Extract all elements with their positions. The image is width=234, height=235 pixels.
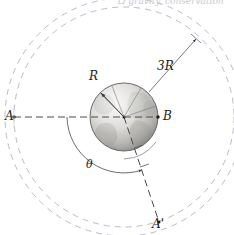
- orbit-figure: Ω gravity, conservation A B A' R 3R θ: [0, 0, 234, 235]
- earth-globe: [90, 83, 158, 161]
- label-radius-r: R: [89, 70, 98, 82]
- radius-3r-tick: [191, 34, 201, 43]
- figure-canvas: [0, 0, 234, 235]
- page-caption-fragment: Ω gravity, conservation: [118, 0, 224, 6]
- point-b-marker: [156, 115, 159, 118]
- label-point-a-prime: A': [152, 218, 164, 230]
- label-angle-theta: θ: [86, 159, 93, 170]
- label-point-b: B: [163, 110, 172, 122]
- label-point-a: A: [5, 110, 14, 122]
- label-radius-3r: 3R: [157, 60, 174, 72]
